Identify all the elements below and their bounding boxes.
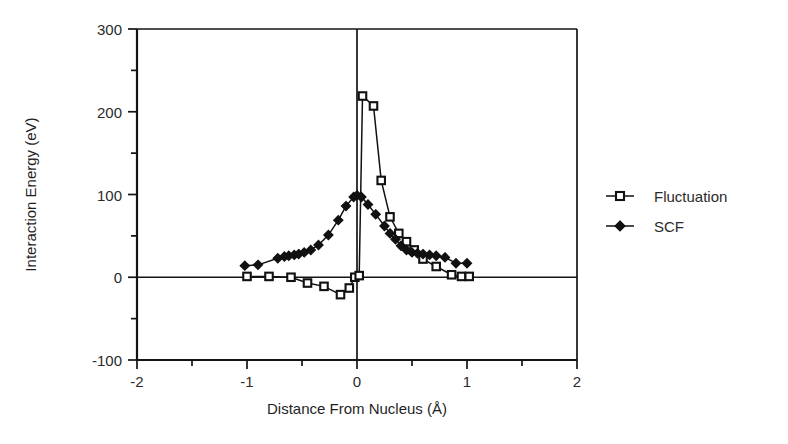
x-tick-label: -2 <box>130 373 143 390</box>
y-axis-title: Interaction Energy (eV) <box>22 117 39 271</box>
data-point-fluctuation <box>458 273 466 281</box>
axis-labels: -1000100200300-2-1012Distance From Nucle… <box>22 21 581 417</box>
data-point-fluctuation <box>265 273 273 281</box>
legend-label: SCF <box>654 218 684 235</box>
x-tick-label: 2 <box>573 373 581 390</box>
chart-canvas: -1000100200300-2-1012Distance From Nucle… <box>0 0 788 444</box>
data-point-scf <box>451 259 460 268</box>
data-point-fluctuation <box>432 263 440 271</box>
data-point-fluctuation <box>370 102 378 110</box>
y-tick-label: 300 <box>97 21 122 38</box>
chart-figure: -1000100200300-2-1012Distance From Nucle… <box>0 0 788 444</box>
x-tick-label: 1 <box>463 373 471 390</box>
data-point-fluctuation <box>304 279 312 287</box>
y-tick-label: 200 <box>97 104 122 121</box>
data-point-fluctuation <box>337 291 345 299</box>
legend-item-scf: SCF <box>606 218 684 235</box>
legend-marker-filled-diamond <box>615 221 625 231</box>
data-point-fluctuation <box>465 273 473 281</box>
data-point-fluctuation <box>243 273 251 281</box>
data-point-fluctuation <box>386 213 394 221</box>
data-point-fluctuation <box>448 271 456 279</box>
data-point-scf <box>253 260 262 269</box>
x-tick-label: -1 <box>240 373 253 390</box>
series-scf <box>240 191 471 271</box>
data-point-scf <box>462 259 471 268</box>
x-tick-label: 0 <box>353 373 361 390</box>
data-point-fluctuation <box>355 272 363 280</box>
data-point-scf <box>240 261 249 270</box>
data-point-fluctuation <box>377 177 385 185</box>
legend-item-fluctuation: Fluctuation <box>606 188 727 205</box>
data-point-scf <box>334 216 343 225</box>
data-point-fluctuation <box>320 283 328 291</box>
data-point-scf <box>432 251 441 260</box>
x-axis-title: Distance From Nucleus (Å) <box>267 400 447 417</box>
legend-marker-open-square <box>616 192 624 200</box>
y-tick-label: 0 <box>114 269 122 286</box>
data-point-fluctuation <box>346 284 354 292</box>
data-point-scf <box>440 253 449 262</box>
y-tick-label: -100 <box>92 352 122 369</box>
chart-legend: FluctuationSCF <box>606 188 727 235</box>
data-point-fluctuation <box>359 92 367 100</box>
data-point-fluctuation <box>287 274 295 282</box>
legend-label: Fluctuation <box>654 188 727 205</box>
y-tick-label: 100 <box>97 187 122 204</box>
